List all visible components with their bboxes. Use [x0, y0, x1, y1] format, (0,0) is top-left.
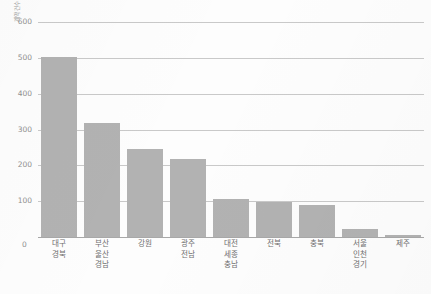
x-axis-label-line: 강원 — [124, 239, 167, 250]
y-tick-label-400: 400 — [6, 90, 32, 98]
x-axis-label-line: 인천 — [338, 250, 381, 261]
bar-slot — [252, 22, 295, 237]
y-tick-label-200: 200 — [6, 161, 32, 169]
bar[interactable] — [84, 123, 120, 237]
x-axis-label: 서울인천경기 — [338, 239, 381, 271]
bar-slot — [167, 22, 210, 237]
bar-slot — [124, 22, 167, 237]
bar-slot — [38, 22, 81, 237]
x-axis-label-line: 경남 — [81, 260, 124, 271]
x-axis-label: 광주전남 — [167, 239, 210, 260]
x-axis-label: 전북 — [252, 239, 295, 250]
bar[interactable] — [170, 159, 206, 237]
bar-slot — [381, 22, 424, 237]
bar-slot — [81, 22, 124, 237]
bar-slot — [210, 22, 253, 237]
x-axis-label: 강원 — [124, 239, 167, 250]
x-axis-label-line: 경북 — [38, 250, 81, 261]
y-tick-label-100: 100 — [6, 197, 32, 205]
x-axis-label: 부산울산경남 — [81, 239, 124, 271]
x-axis-label-line: 충남 — [210, 260, 253, 271]
bar-chart: 계약건수 100200300400500600 0 대구경북부산울산경남강원광주… — [0, 0, 431, 294]
x-axis-label: 대구경북 — [38, 239, 81, 260]
y-axis-zero-label: 0 — [22, 240, 27, 249]
bar[interactable] — [385, 235, 421, 237]
bar[interactable] — [213, 199, 249, 237]
bar-slot — [338, 22, 381, 237]
x-axis-label-line: 경기 — [338, 260, 381, 271]
y-tick-label-600: 600 — [6, 18, 32, 26]
x-axis-label-line: 대전 — [210, 239, 253, 250]
y-tick-label-300: 300 — [6, 126, 32, 134]
bar[interactable] — [127, 149, 163, 238]
x-axis-labels: 대구경북부산울산경남강원광주전남대전세종충남전북충북서울인천경기제주 — [38, 239, 424, 294]
bar[interactable] — [41, 57, 77, 237]
bar[interactable] — [342, 229, 378, 237]
bar[interactable] — [299, 205, 335, 237]
bar-slot — [295, 22, 338, 237]
y-tick-label-500: 500 — [6, 54, 32, 62]
x-axis-label-line: 서울 — [338, 239, 381, 250]
x-axis-label-line: 광주 — [167, 239, 210, 250]
x-axis-label-line: 울산 — [81, 250, 124, 261]
x-axis-label: 대전세종충남 — [210, 239, 253, 271]
x-axis-label-line: 세종 — [210, 250, 253, 261]
x-axis-label-line: 제주 — [381, 239, 424, 250]
x-axis-label: 충북 — [295, 239, 338, 250]
x-axis-label: 제주 — [381, 239, 424, 250]
x-axis-label-line: 충북 — [295, 239, 338, 250]
x-axis-label-line: 전남 — [167, 250, 210, 261]
x-axis-label-line: 부산 — [81, 239, 124, 250]
x-axis-label-line: 전북 — [252, 239, 295, 250]
x-axis-label-line: 대구 — [38, 239, 81, 250]
bar[interactable] — [256, 202, 292, 237]
